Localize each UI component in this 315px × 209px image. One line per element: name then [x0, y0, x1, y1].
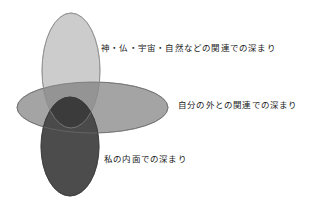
diagram-canvas: 神・仏・宇宙・自然などの関連での深まり 自分の外との関連での深まり 私の内面での… — [0, 0, 315, 209]
label-inner-self: 私の内面での深まり — [104, 155, 187, 164]
label-external-relation: 自分の外との関連での深まり — [178, 101, 298, 110]
label-spiritual-relation: 神・仏・宇宙・自然などの関連での深まり — [101, 44, 276, 53]
